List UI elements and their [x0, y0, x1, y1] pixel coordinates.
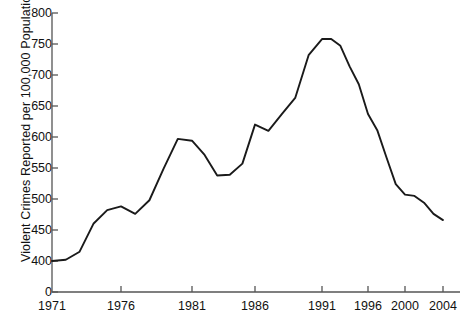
chart-container: Violent Crimes Reported per 100,000 Popu…: [0, 0, 467, 333]
y-axis-ticks: [52, 13, 58, 292]
axis-spine: [52, 13, 460, 292]
data-series-line: [52, 39, 443, 261]
x-axis-ticks: [52, 286, 443, 292]
chart-svg: [0, 0, 467, 333]
